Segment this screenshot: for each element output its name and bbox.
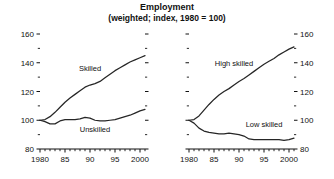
x-tick-label: 1980 [31, 155, 49, 164]
series-annotation: Unskilled [80, 125, 110, 134]
x-tick-label: 90 [235, 155, 244, 164]
chart-header: Employment (weighted; index, 1980 = 100) [0, 2, 334, 24]
y-tick-label: 100 [300, 116, 314, 125]
y-tick-label: 80 [25, 145, 34, 154]
line-chart-skilled-unskilled: 1980859095200080100120140160SkilledUnski… [0, 26, 167, 179]
chart-panel-right: 1980859095200080100120140160High skilled… [167, 26, 334, 179]
y-tick-label: 140 [21, 59, 35, 68]
y-tick-label: 140 [300, 59, 314, 68]
chart-panel-left: 1980859095200080100120140160SkilledUnski… [0, 26, 167, 179]
y-tick-label: 160 [300, 30, 314, 39]
line-chart-high-low-skilled: 1980859095200080100120140160High skilled… [167, 26, 334, 179]
y-tick-label: 160 [21, 30, 35, 39]
x-tick-label: 85 [210, 155, 219, 164]
page-title: Employment [0, 2, 334, 13]
series-annotation: High skilled [215, 59, 253, 68]
y-tick-label: 100 [21, 116, 35, 125]
x-tick-label: 95 [111, 155, 120, 164]
series-annotation: Skilled [79, 64, 101, 73]
x-tick-label: 85 [61, 155, 70, 164]
x-tick-label: 90 [86, 155, 95, 164]
chart-subtitle: (weighted; index, 1980 = 100) [0, 13, 334, 24]
x-tick-label: 2000 [131, 155, 149, 164]
x-tick-label: 2000 [280, 155, 298, 164]
y-tick-label: 120 [300, 88, 314, 97]
x-tick-label: 1980 [180, 155, 198, 164]
series-annotation: Low skilled [246, 120, 283, 129]
employment-chart-figure: Employment (weighted; index, 1980 = 100)… [0, 0, 334, 179]
x-tick-label: 95 [260, 155, 269, 164]
y-tick-label: 120 [21, 88, 35, 97]
chart-panels: 1980859095200080100120140160SkilledUnski… [0, 26, 334, 179]
y-tick-label: 80 [300, 145, 309, 154]
